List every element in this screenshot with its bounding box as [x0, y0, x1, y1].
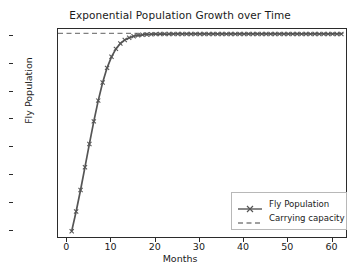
x-tick-label: 30: [179, 241, 219, 252]
x-tick-mark: [243, 238, 244, 242]
x-tick-label: 0: [46, 241, 86, 252]
y-tick-mark: [9, 91, 13, 92]
y-tick-mark: [9, 35, 13, 36]
y-axis-label: Fly Population: [23, 16, 34, 166]
y-tick-mark: [9, 118, 13, 119]
data-point-marker: [118, 41, 122, 45]
x-tick-label: 50: [267, 241, 307, 252]
x-tick-label: 10: [90, 241, 130, 252]
chart-figure: Exponential Population Growth over Time …: [0, 0, 360, 274]
chart-title: Exponential Population Growth over Time: [0, 9, 360, 21]
legend-item-fly-population[interactable]: Fly Population: [237, 197, 341, 211]
legend-label-carrying-capacity: Carrying capacity: [269, 213, 345, 223]
x-tick-mark: [110, 238, 111, 242]
legend-label-fly-population: Fly Population: [269, 199, 329, 209]
x-tick-label: 60: [312, 241, 352, 252]
x-tick-label: 40: [223, 241, 263, 252]
legend-sample-dashed-line: [237, 213, 263, 223]
x-tick-mark: [199, 238, 200, 242]
y-tick-mark: [9, 174, 13, 175]
y-tick-mark: [9, 202, 13, 203]
legend-sample-line-marker: [237, 199, 263, 209]
x-tick-mark: [155, 238, 156, 242]
y-tick-mark: [9, 230, 13, 231]
legend-item-carrying-capacity[interactable]: Carrying capacity: [237, 211, 341, 225]
chart-legend[interactable]: Fly Population Carrying capacity: [231, 192, 347, 230]
x-tick-mark: [287, 238, 288, 242]
y-tick-mark: [9, 146, 13, 147]
y-tick-mark: [9, 63, 13, 64]
x-tick-mark: [66, 238, 67, 242]
x-tick-mark: [332, 238, 333, 242]
x-tick-label: 20: [135, 241, 175, 252]
x-axis-label: Months: [0, 253, 360, 264]
